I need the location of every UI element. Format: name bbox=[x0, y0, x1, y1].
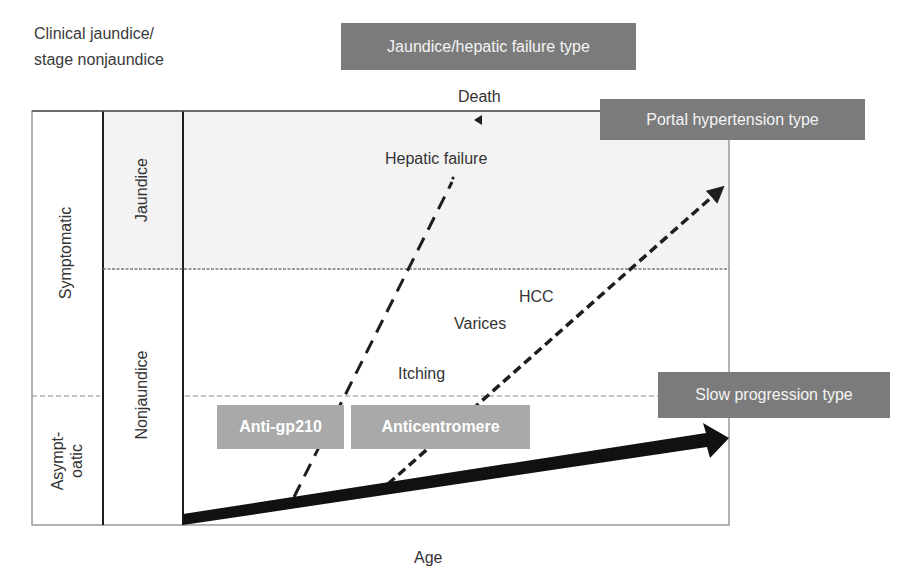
jaundice-label: Jaundice bbox=[132, 150, 152, 230]
nonjaundice-label: Nonjaundice bbox=[132, 340, 152, 450]
x-axis-label: Age bbox=[414, 548, 442, 568]
anti-gp210-box: Anti-gp210 bbox=[217, 405, 344, 449]
hepatic-failure-endpoint bbox=[451, 176, 454, 179]
varices-label: Varices bbox=[454, 314, 506, 334]
death-label: Death bbox=[458, 87, 501, 107]
symptomatic-label: Symptomatic bbox=[56, 193, 76, 313]
portal-hypertension-type-box: Portal hypertension type bbox=[600, 99, 865, 140]
anticentromere-box: Anticentromere bbox=[351, 405, 530, 449]
asymptomatic-label: Asympt- oatic bbox=[48, 416, 88, 506]
itching-label: Itching bbox=[398, 364, 445, 384]
progression-diagram bbox=[0, 0, 913, 583]
slow-progression-type-box: Slow progression type bbox=[658, 372, 890, 418]
jaundice-hepatic-failure-type-box: Jaundice/hepatic failure type bbox=[341, 23, 636, 70]
hcc-label: HCC bbox=[519, 287, 554, 307]
hepatic-failure-label: Hepatic failure bbox=[385, 149, 487, 169]
